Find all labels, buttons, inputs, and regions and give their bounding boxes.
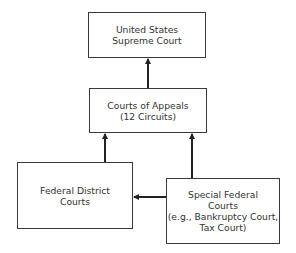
node-label-line: Courts (208, 200, 238, 211)
node-label-line: Tax Court) (200, 222, 247, 233)
node-label-line: Special Federal (188, 189, 258, 200)
node-federal-district-courts: Federal District Courts (17, 162, 133, 229)
node-label-line: Supreme Court (112, 35, 181, 46)
node-label-line: Federal District (40, 185, 110, 196)
node-label-line: United States (116, 24, 178, 35)
node-supreme-court: United States Supreme Court (88, 12, 206, 58)
node-label-line: Courts of Appeals (107, 100, 188, 111)
node-label-line: (e.g., Bankruptcy Court, (168, 211, 278, 222)
node-label-line: (12 Circuits) (120, 111, 176, 122)
node-special-federal-courts: Special Federal Courts (e.g., Bankruptcy… (166, 178, 280, 244)
node-label-line: Courts (60, 196, 90, 207)
node-courts-of-appeals: Courts of Appeals (12 Circuits) (89, 88, 207, 133)
